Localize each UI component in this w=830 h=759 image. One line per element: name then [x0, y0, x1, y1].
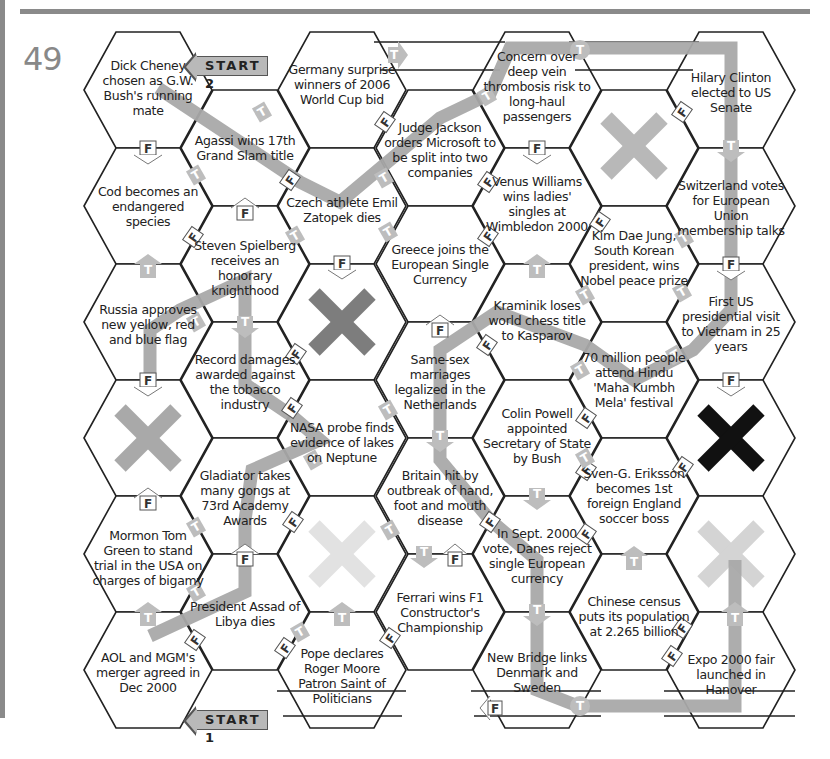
- hex-c4r1[interactable]: Venus Williams wins ladies' singles at W…: [481, 174, 593, 234]
- hex-c0r1[interactable]: Cod becomes an endangered species: [92, 184, 204, 229]
- svg-text:T: T: [144, 263, 153, 277]
- svg-text:F: F: [727, 258, 735, 272]
- hex-c5r2[interactable]: 70 million people attend Hindu 'Maha Kum…: [578, 350, 690, 410]
- svg-text:F: F: [436, 324, 444, 338]
- hex-c4r3[interactable]: Colin Powell appointed Secretary of Stat…: [481, 406, 593, 466]
- svg-text:F: F: [144, 374, 152, 388]
- svg-text:T: T: [533, 487, 542, 501]
- hex-c1r2[interactable]: Record damages awarded against the tobac…: [189, 352, 301, 412]
- hex-c2r0[interactable]: Germany surprise winners of 2006 World C…: [286, 62, 398, 107]
- hex-c4r5[interactable]: New Bridge links Denmark and Sweden: [481, 650, 593, 695]
- hex-c0r4[interactable]: Mormon Tom Green to stand trial in the U…: [92, 528, 204, 588]
- svg-text:T: T: [731, 611, 740, 625]
- svg-text:F: F: [144, 142, 152, 156]
- svg-text:T: T: [144, 611, 153, 625]
- hex-c3r0[interactable]: Judge Jackson orders Microsoft to be spl…: [384, 120, 496, 180]
- hex-c6r5[interactable]: Expo 2000 fair launched in Hanover: [675, 652, 787, 697]
- hex-c3r2[interactable]: Same-sex marriages legalized in the Neth…: [384, 352, 496, 412]
- hex-c4r0[interactable]: Concern over deep vein thrombosis risk t…: [481, 49, 593, 124]
- svg-text:F: F: [241, 553, 249, 567]
- hex-c1r4[interactable]: President Assad of Libya dies: [189, 599, 301, 629]
- hex-c1r3[interactable]: Gladiator takes many gongs at 73rd Acade…: [189, 468, 301, 528]
- hex-c3r4[interactable]: Ferrari wins F1 Constructor's Championsh…: [384, 590, 496, 635]
- hex-c6r2[interactable]: First US presidential visit to Vietnam i…: [675, 294, 787, 354]
- svg-text:F: F: [491, 702, 499, 716]
- hex-c4r2[interactable]: Kraminik loses world chess title to Kasp…: [481, 298, 593, 343]
- svg-text:T: T: [420, 545, 429, 559]
- hex-c6r1[interactable]: Switzerland votes for European Union mem…: [675, 178, 787, 238]
- svg-text:F: F: [727, 374, 735, 388]
- svg-text:F: F: [241, 207, 249, 221]
- hex-c5r1[interactable]: Kim Dae Jung, South Korean president, wi…: [578, 228, 690, 288]
- hex-c0r5[interactable]: AOL and MGM's merger agreed in Dec 2000: [92, 650, 204, 695]
- svg-text:T: T: [533, 603, 542, 617]
- svg-text:F: F: [338, 257, 346, 271]
- svg-text:T: T: [390, 48, 399, 62]
- hex-c3r3[interactable]: Britain hit by outbreak of hand, foot an…: [384, 468, 496, 528]
- svg-text:F: F: [451, 553, 459, 567]
- svg-text:F: F: [144, 497, 152, 511]
- hex-c5r3[interactable]: Sven-G. Eriksson becomes 1st foreign Eng…: [578, 466, 690, 526]
- start-1-arrow: START 1: [196, 710, 268, 730]
- svg-text:T: T: [338, 611, 347, 625]
- start-2-arrow: START 2: [196, 56, 268, 76]
- svg-text:T: T: [241, 315, 250, 329]
- hex-c1r0[interactable]: Agassi wins 17th Grand Slam title: [189, 133, 301, 163]
- svg-text:T: T: [436, 429, 445, 443]
- hex-c2r3[interactable]: NASA probe finds evidence of lakes on Ne…: [286, 420, 398, 465]
- hex-c0r2[interactable]: Russia approves new yellow, red and blue…: [92, 302, 204, 347]
- hex-c3r1[interactable]: Greece joins the European Single Currenc…: [384, 242, 496, 287]
- svg-text:F: F: [533, 142, 541, 156]
- svg-text:T: T: [576, 699, 585, 713]
- hex-c5r4[interactable]: Chinese census puts its population at 2.…: [578, 594, 690, 639]
- hex-c1r1[interactable]: Steven Spielberg receives an honorary kn…: [189, 238, 301, 298]
- hex-c2r5[interactable]: Pope declares Roger Moore Patron Saint o…: [286, 646, 398, 706]
- hex-c4r4[interactable]: In Sept. 2000 vote, Danes reject single …: [481, 526, 593, 586]
- svg-text:T: T: [533, 263, 542, 277]
- svg-text:T: T: [727, 139, 736, 153]
- hex-c2r1[interactable]: Czech athlete Emil Zatopek dies: [286, 195, 398, 225]
- hex-c6r0[interactable]: Hilary Clinton elected to US Senate: [675, 70, 787, 115]
- svg-text:T: T: [630, 555, 639, 569]
